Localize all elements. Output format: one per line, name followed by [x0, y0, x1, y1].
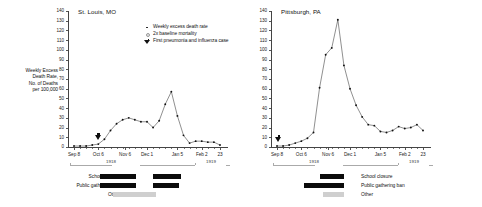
year-label-1919: 1919: [399, 159, 429, 164]
data-point: [110, 130, 112, 132]
year-label-1918: 1918: [96, 159, 126, 164]
data-point: [337, 19, 339, 21]
data-point: [79, 145, 81, 147]
data-point: [207, 141, 209, 143]
year-label-1918: 1918: [299, 159, 329, 164]
data-point: [367, 124, 369, 126]
data-point: [319, 87, 321, 89]
data-point: [91, 144, 93, 146]
npi-row-label-school-closure: School closure: [361, 174, 392, 179]
npi-bar: [113, 192, 156, 197]
data-point: [300, 140, 302, 142]
data-point: [219, 144, 221, 146]
data-point: [116, 123, 118, 125]
data-point: [201, 140, 203, 142]
data-point: [331, 47, 333, 49]
data-point: [176, 115, 178, 117]
data-point: [183, 134, 185, 136]
data-point: [85, 145, 87, 147]
data-point: [164, 103, 166, 105]
data-point: [416, 124, 418, 126]
npi-bar: [153, 174, 181, 179]
chart-panel-st-louis: St. Louis, MO Weekly Excess Death Rate, …: [0, 0, 241, 207]
data-point: [158, 120, 160, 122]
npi-bar: [100, 183, 137, 188]
data-point: [134, 119, 136, 121]
data-point: [386, 131, 388, 133]
data-point: [410, 127, 412, 129]
data-point: [122, 119, 124, 121]
chart-panel-pittsburgh: Pittsburgh, PA 0102030405060708090100110…: [241, 0, 482, 207]
data-point: [189, 142, 191, 144]
data-point: [152, 127, 154, 129]
npi-bar: [153, 183, 179, 188]
npi-bar: [100, 174, 137, 179]
npi-bar: [323, 192, 344, 197]
data-point: [392, 130, 394, 132]
npi-bar: [320, 174, 344, 179]
data-point: [128, 117, 130, 119]
first-case-marker: [275, 135, 282, 144]
npi-bar: [304, 183, 344, 188]
year-label-1919: 1919: [196, 159, 226, 164]
data-point: [170, 91, 172, 93]
data-point: [146, 121, 148, 123]
data-point: [313, 131, 315, 133]
data-point: [373, 125, 375, 127]
data-point: [422, 130, 424, 132]
data-point: [355, 104, 357, 106]
data-point: [103, 138, 105, 140]
data-point: [288, 144, 290, 146]
data-point: [306, 137, 308, 139]
data-point: [97, 143, 99, 145]
data-point: [379, 131, 381, 133]
data-point: [398, 126, 400, 128]
data-point: [195, 140, 197, 142]
data-point: [294, 142, 296, 144]
data-point: [73, 145, 75, 147]
data-point: [213, 141, 215, 143]
data-point: [325, 54, 327, 56]
data-point: [349, 88, 351, 90]
data-point: [282, 145, 284, 147]
data-point: [361, 116, 363, 118]
data-point: [276, 145, 278, 147]
npi-row-label-other: Other: [361, 192, 373, 197]
first-case-marker: [95, 133, 102, 142]
data-point: [140, 121, 142, 123]
data-point: [343, 64, 345, 66]
data-point: [404, 128, 406, 130]
npi-row-label-public-gathering-ban: Public gathering ban: [361, 183, 405, 188]
